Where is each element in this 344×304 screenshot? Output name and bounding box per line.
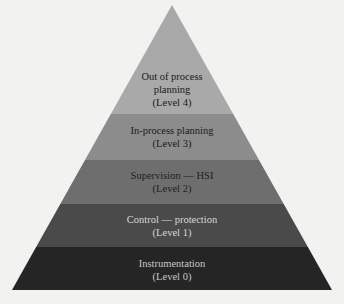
level-4-title-line-1: Out of process bbox=[0, 70, 344, 83]
level-0-level-text: (Level 0) bbox=[0, 270, 344, 283]
level-3-label: In-process planning (Level 3) bbox=[0, 124, 344, 150]
level-4-title-line-2: planning bbox=[0, 83, 344, 96]
pyramid-diagram: Out of process planning (Level 4) In-pro… bbox=[0, 0, 344, 304]
level-1-title: Control — protection bbox=[0, 213, 344, 226]
level-2-title: Supervision — HSI bbox=[0, 169, 344, 182]
level-1-label: Control — protection (Level 1) bbox=[0, 213, 344, 239]
level-0-title: Instrumentation bbox=[0, 257, 344, 270]
level-2-label: Supervision — HSI (Level 2) bbox=[0, 169, 344, 195]
level-4-level-text: (Level 4) bbox=[0, 96, 344, 109]
level-3-title: In-process planning bbox=[0, 124, 344, 137]
level-2-level-text: (Level 2) bbox=[0, 182, 344, 195]
level-4-label: Out of process planning (Level 4) bbox=[0, 70, 344, 109]
level-3-level-text: (Level 3) bbox=[0, 137, 344, 150]
level-1-level-text: (Level 1) bbox=[0, 226, 344, 239]
level-0-label: Instrumentation (Level 0) bbox=[0, 257, 344, 283]
